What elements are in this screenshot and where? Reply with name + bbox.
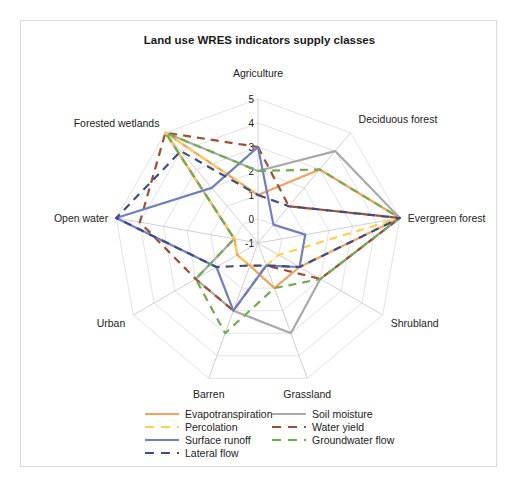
legend-item-evapotranspiration: Evapotranspiration	[145, 408, 273, 420]
legend-label: Soil moisture	[312, 408, 373, 420]
category-label-deciduous-forest: Deciduous forest	[359, 113, 438, 125]
legend-label: Water yield	[312, 421, 364, 433]
legend-item-surface-runoff: Surface runoff	[145, 434, 251, 446]
legend-swatch-water-yield	[272, 422, 306, 432]
category-label-urban: Urban	[97, 317, 126, 329]
grid-spoke	[258, 218, 400, 243]
grid-spoke	[116, 218, 258, 243]
radial-tick-labels: -1012345	[245, 94, 254, 249]
tick-label: 4	[248, 118, 254, 129]
tick-label: -1	[245, 238, 254, 249]
category-label-evergreen-forest: Evergreen forest	[408, 212, 486, 224]
category-label-agriculture: Agriculture	[233, 67, 283, 79]
legend-item-soil-moisture: Soil moisture	[272, 408, 373, 420]
legend-item-groundwater-flow: Groundwater flow	[272, 434, 394, 446]
legend-swatch-percolation	[145, 422, 179, 432]
category-label-barren: Barren	[193, 388, 225, 400]
legend-swatch-soil-moisture	[272, 409, 306, 419]
legend-label: Percolation	[185, 421, 238, 433]
legend-swatch-groundwater-flow	[272, 435, 306, 445]
legend-label: Surface runoff	[185, 434, 251, 446]
legend-swatch-surface-runoff	[145, 435, 179, 445]
category-label-open-water: Open water	[54, 212, 109, 224]
legend-label: Evapotranspiration	[185, 408, 273, 420]
legend-item-water-yield: Water yield	[272, 421, 364, 433]
legend-label: Groundwater flow	[312, 434, 394, 446]
legend-item-percolation: Percolation	[145, 421, 238, 433]
legend-swatch-evapotranspiration	[145, 409, 179, 419]
category-label-forested-wetlands: Forested wetlands	[74, 117, 160, 129]
tick-label: 0	[248, 214, 254, 225]
legend-label: Lateral flow	[185, 447, 239, 459]
grid-spoke	[258, 133, 351, 243]
tick-label: 5	[248, 94, 254, 105]
legend-swatch-lateral-flow	[145, 448, 179, 458]
category-label-grassland: Grassland	[283, 388, 331, 400]
legend-item-lateral-flow: Lateral flow	[145, 447, 239, 459]
category-label-shrubland: Shrubland	[391, 317, 439, 329]
